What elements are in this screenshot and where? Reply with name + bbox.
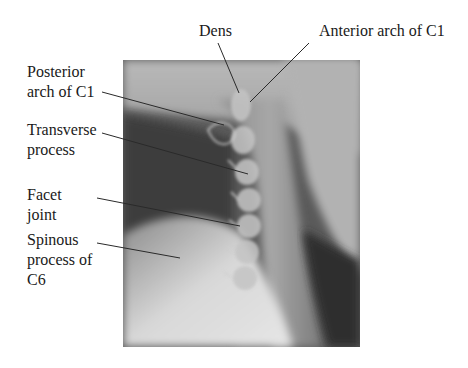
transverse-process-leader-line — [102, 133, 248, 174]
label-anterior-arch-c1: Anterior arch of C1 — [319, 21, 445, 41]
leader-lines — [0, 0, 468, 368]
posterior-arch-c1-leader-line — [102, 92, 224, 125]
label-transverse-process: Transverse process — [27, 120, 97, 160]
label-facet-joint: Facet joint — [27, 185, 62, 225]
dens-leader-line — [218, 43, 239, 93]
label-spinous-process-c6: Spinous process of C6 — [27, 230, 92, 290]
facet-joint-leader-line — [97, 198, 240, 226]
label-posterior-arch-c1: Posterior arch of C1 — [27, 62, 95, 102]
anterior-arch-c1-leader-line — [250, 43, 309, 102]
label-dens: Dens — [199, 21, 232, 41]
spinous-process-c6-leader-line — [97, 243, 180, 258]
